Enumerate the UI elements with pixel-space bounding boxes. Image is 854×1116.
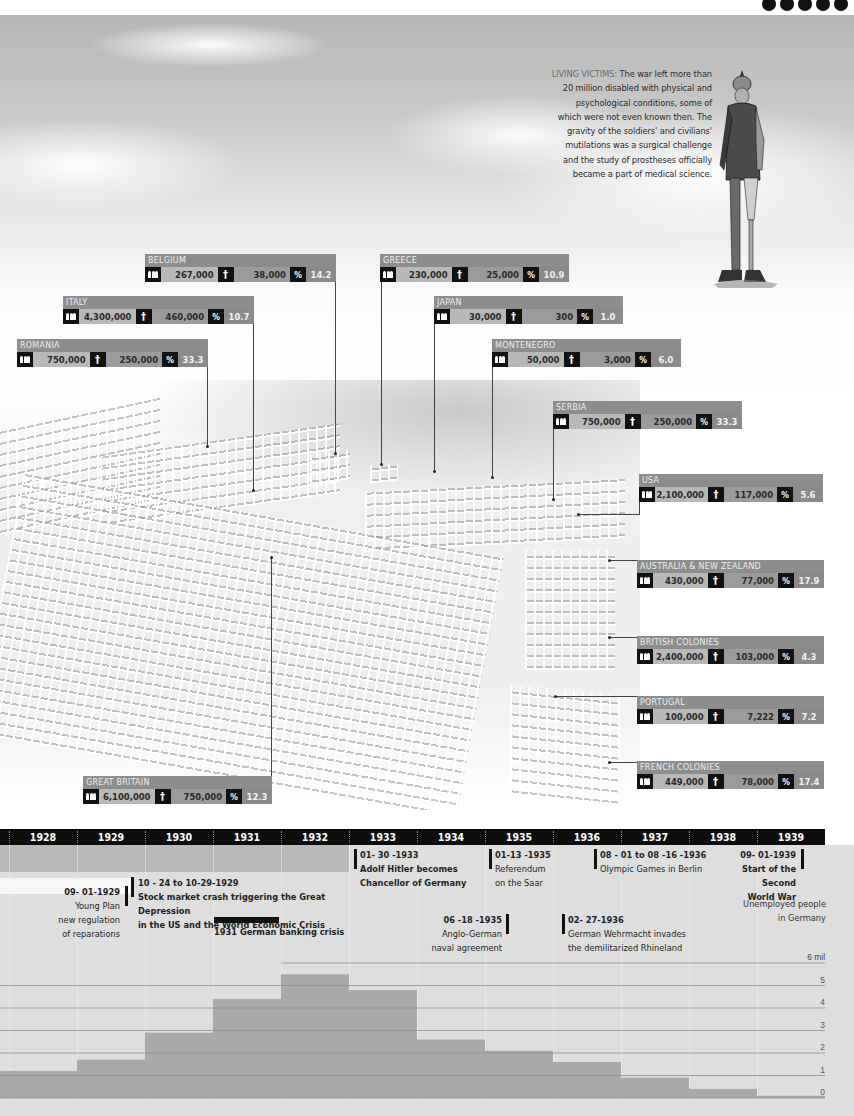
deaths-value: 25,000	[468, 267, 524, 282]
caption-text: The war left more than 20 million disabl…	[558, 68, 712, 179]
cross-icon: †	[708, 774, 724, 789]
dot	[834, 0, 848, 11]
mobilized-value: 230,000	[396, 267, 452, 282]
country-name: MONTENEGRO	[492, 339, 681, 352]
event-text: Second	[730, 876, 796, 890]
country-label-british-colonies: BRITISH COLONIES 2,400,000 † 103,000 % 4…	[637, 636, 824, 664]
country-label-australia-new-zealand: AUSTRALIA & NEW ZEALAND 430,000 † 77,000…	[637, 560, 824, 588]
wounded-soldier-illustration	[712, 70, 782, 292]
country-stats: 430,000 † 77,000 % 17.9	[637, 573, 824, 588]
event-text: German Wehrmacht invades	[568, 927, 728, 941]
year-divider	[757, 831, 758, 843]
leader-pin	[270, 556, 273, 559]
y-tick-label: 2	[820, 1042, 825, 1052]
bar-1928	[0, 1071, 77, 1098]
deaths-value: 117,000	[724, 487, 777, 502]
percent-icon: %	[778, 709, 794, 724]
cross-icon: †	[136, 309, 152, 324]
leader-line-greece	[381, 281, 382, 464]
percent-value: 4.3	[794, 649, 824, 664]
country-name: PORTUGAL	[637, 696, 824, 709]
percent-value: 6.0	[651, 352, 681, 367]
banking-crisis-marker	[214, 917, 279, 923]
leader-pin	[554, 695, 557, 698]
percent-value: 14.2	[306, 267, 336, 282]
soldiers-icon	[63, 309, 79, 324]
deaths-value: 460,000	[152, 309, 209, 324]
event-text: Young Plan	[40, 899, 120, 913]
deaths-value: 78,000	[724, 774, 779, 789]
mobilized-value: 50,000	[508, 352, 564, 367]
deaths-value: 7,222	[724, 709, 779, 724]
country-label-french-colonies: FRENCH COLONIES 449,000 † 78,000 % 17.4	[637, 761, 824, 789]
country-name: AUSTRALIA & NEW ZEALAND	[637, 560, 824, 573]
cross-icon: †	[625, 414, 641, 429]
year-divider	[77, 831, 78, 843]
event-text: Stock market crash triggering the Great …	[138, 890, 378, 918]
bar-1933	[349, 990, 417, 1098]
soldiers-icon	[553, 414, 569, 429]
country-stats: 30,000 † 300 % 1.0	[434, 309, 623, 324]
deaths-value: 77,000	[724, 573, 779, 588]
leader-pin	[608, 559, 611, 562]
soldiers-icon	[637, 709, 653, 724]
leader-line-portugal	[555, 696, 640, 697]
event-date: 10 - 24 to 10-29-1929	[138, 876, 378, 890]
leader-pin	[334, 452, 337, 455]
percent-icon: %	[523, 267, 539, 282]
bar-1938	[689, 1089, 757, 1098]
soldiers-icon	[83, 789, 99, 804]
percent-value: 17.9	[794, 573, 824, 588]
percent-icon: %	[226, 789, 242, 804]
leader-pin	[552, 498, 555, 501]
bar-1930	[145, 1033, 213, 1098]
event-olympics: 08 - 01 to 08 -16 -1936 Olympic Games in…	[600, 848, 740, 876]
country-label-serbia: SERBIA 750,000 † 250,000 % 33.3	[553, 401, 742, 429]
percent-icon: %	[577, 309, 593, 324]
year-label-1936: 1936	[553, 829, 621, 845]
event-marker	[506, 914, 509, 934]
event-ww2-start: 09- 01-1939 Start of the Second World Wa…	[730, 848, 796, 904]
mobilized-value: 6,100,000	[99, 789, 155, 804]
event-text: Adolf Hitler becomes	[360, 862, 480, 876]
mobilized-value: 2,400,000	[653, 649, 708, 664]
y-tick-label: 3	[820, 1020, 825, 1030]
y-tick-label: 5	[820, 975, 825, 985]
percent-icon: %	[778, 573, 794, 588]
bar-1937	[621, 1078, 689, 1098]
cross-icon: †	[708, 487, 724, 502]
cross-icon: †	[218, 267, 234, 282]
country-name: ITALY	[63, 296, 254, 309]
year-label-1931: 1931	[213, 829, 281, 845]
cross-icon: †	[708, 649, 724, 664]
year-label-1929: 1929	[77, 829, 145, 845]
leader-line-montenegro	[492, 366, 493, 477]
year-timeline: 1928192919301931193219331934193519361937…	[0, 829, 825, 845]
cross-icon: †	[155, 789, 171, 804]
bar-1936	[553, 1062, 621, 1098]
soldiers-icon	[380, 267, 396, 282]
mobilized-value: 430,000	[653, 573, 708, 588]
country-name: ROMANIA	[17, 339, 208, 352]
event-date: 08 - 01 to 08 -16 -1936	[600, 848, 740, 862]
deaths-value: 103,000	[724, 649, 779, 664]
mobilized-value: 267,000	[161, 267, 218, 282]
country-label-great-britain: GREAT BRITAIN 6,100,000 † 750,000 % 12.3	[83, 776, 272, 804]
event-text: Chancellor of Germany	[360, 876, 480, 890]
soldiers-icon	[492, 352, 508, 367]
event-young-plan: 09- 01-1929 Young Plan new regulation of…	[40, 885, 120, 941]
country-stats: 2,400,000 † 103,000 % 4.3	[637, 649, 824, 664]
y-tick-label: 1	[820, 1065, 825, 1075]
leader-line-great-britain	[271, 557, 272, 777]
country-stats: 449,000 † 78,000 % 17.4	[637, 774, 824, 789]
leader-pin	[608, 761, 611, 764]
leader-line-italy	[253, 323, 254, 490]
percent-value: 10.7	[224, 309, 254, 324]
country-stats: 50,000 † 3,000 % 6.0	[492, 352, 681, 367]
cemetery-field-illustration	[0, 380, 640, 810]
soldiers-icon	[434, 309, 450, 324]
country-name: FRENCH COLONIES	[637, 761, 824, 774]
bar-1929	[77, 1060, 145, 1098]
dot	[762, 0, 776, 11]
percent-icon: %	[696, 414, 712, 429]
